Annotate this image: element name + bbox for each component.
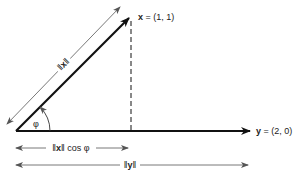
projection-label: ‖x‖ cos φ — [52, 143, 89, 153]
vector-x-arrow — [16, 18, 129, 131]
vector-diagram: φ ‖x‖ x = (1, 1) y = (2, 0) ‖x‖ cos φ ‖y… — [0, 0, 298, 175]
angle-label: φ — [33, 119, 39, 129]
vector-x-label: x = (1, 1) — [138, 12, 174, 22]
angle-arc-icon — [40, 107, 50, 131]
vector-y-label: y = (2, 0) — [256, 126, 292, 136]
norm-y-label: ‖y‖ — [124, 160, 136, 170]
